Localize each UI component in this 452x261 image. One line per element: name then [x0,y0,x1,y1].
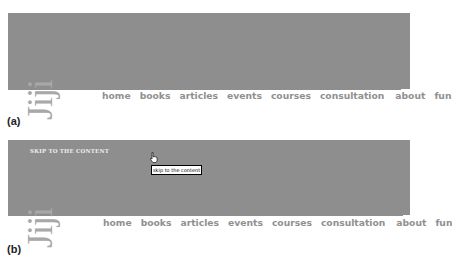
main-nav: home books articles events courses consu… [103,217,452,228]
figure-caption-b: (b) [7,243,21,255]
nav-courses[interactable]: courses [271,90,311,101]
nav-home[interactable]: home [102,90,131,101]
hand-pointer-icon [150,152,158,163]
main-nav: home books articles events courses consu… [102,90,451,101]
nav-consultation[interactable]: consultation [320,90,384,101]
nav-courses[interactable]: courses [272,217,312,228]
nav-fun[interactable]: fun [435,217,452,228]
skip-link-tooltip: skip to the content [151,165,202,175]
nav-articles[interactable]: articles [180,217,219,228]
header-banner [8,13,410,89]
site-logo[interactable]: Jiji [22,80,58,120]
nav-books[interactable]: books [140,90,171,101]
nav-home[interactable]: home [103,217,132,228]
nav-events[interactable]: events [228,217,263,228]
nav-fun[interactable]: fun [434,90,451,101]
nav-about[interactable]: about [396,217,426,228]
header-banner-tab [8,212,403,216]
skip-to-content-link[interactable]: SKIP TO THE CONTENT [30,148,109,154]
nav-articles[interactable]: articles [179,90,218,101]
panel-a: Jiji home books articles events courses … [0,0,422,130]
nav-consultation[interactable]: consultation [321,217,385,228]
nav-books[interactable]: books [141,217,172,228]
nav-events[interactable]: events [227,90,262,101]
panel-b: SKIP TO THE CONTENT skip to the content … [0,130,422,261]
site-logo[interactable]: Jiji [22,208,58,248]
nav-about[interactable]: about [395,90,425,101]
figure-caption-a: (a) [7,115,20,127]
